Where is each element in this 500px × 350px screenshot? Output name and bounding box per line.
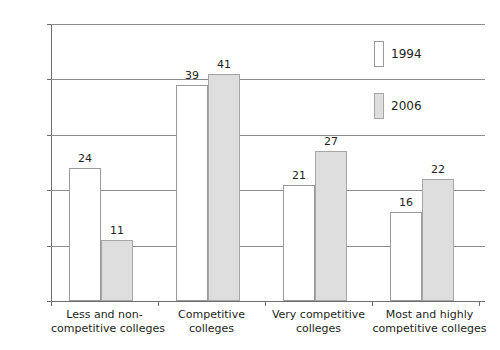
legend-entry-1994: 1994: [374, 41, 422, 67]
x-category-label-most-and-highly-competitive: Most and highly competitive colleges: [372, 308, 487, 336]
bar-1994-very-competitive: 21: [283, 185, 315, 301]
x-category-line: Less and non-: [51, 308, 158, 322]
x-category-line: Most and highly: [372, 308, 487, 322]
bar-value-label: 22: [431, 163, 445, 176]
x-category-line: colleges: [265, 322, 372, 336]
gridline-20: [51, 190, 485, 191]
bar-value-label: 21: [292, 169, 306, 182]
bar-2006-less-and-non-competitive: 11: [101, 240, 133, 301]
legend-swatch-1994-icon: [374, 41, 384, 67]
bar-2006-most-and-highly-competitive: 22: [422, 179, 454, 301]
x-axis-baseline: [51, 301, 485, 302]
bar-chart-figure: Percent 50 40 30 20 10 0 24 11 39 41: [0, 0, 500, 350]
x-tick-mark-0: [51, 301, 52, 306]
bar-value-label: 39: [185, 69, 199, 82]
bar-value-label: 27: [324, 135, 338, 148]
x-category-label-competitive: Competitive colleges: [158, 308, 265, 336]
legend-label-2006: 2006: [391, 99, 422, 113]
bar-2006-competitive: 41: [208, 74, 240, 301]
bar-value-label: 24: [78, 152, 92, 165]
x-category-line: competitive colleges: [372, 322, 487, 336]
x-category-label-less-and-non-competitive: Less and non- competitive colleges: [51, 308, 158, 336]
x-tick-mark-2: [265, 301, 266, 306]
bar-1994-competitive: 39: [176, 85, 208, 301]
bar-1994-less-and-non-competitive: 24: [69, 168, 101, 301]
gridline-50: [51, 24, 485, 25]
x-category-line: competitive colleges: [51, 322, 158, 336]
x-category-line: Very competitive: [265, 308, 372, 322]
x-category-line: Competitive: [158, 308, 265, 322]
x-tick-mark-1: [158, 301, 159, 306]
gridline-40: [51, 79, 485, 80]
x-tick-mark-3: [372, 301, 373, 306]
legend-label-1994: 1994: [391, 47, 422, 61]
x-category-label-very-competitive: Very competitive colleges: [265, 308, 372, 336]
bar-value-label: 41: [217, 58, 231, 71]
bar-1994-most-and-highly-competitive: 16: [390, 212, 422, 301]
bar-value-label: 16: [399, 196, 413, 209]
bar-value-label: 11: [110, 224, 124, 237]
legend-swatch-2006-icon: [374, 93, 384, 119]
gridline-30: [51, 135, 485, 136]
bar-2006-very-competitive: 27: [315, 151, 347, 301]
legend-entry-2006: 2006: [374, 93, 422, 119]
x-tick-mark-4: [479, 301, 480, 306]
x-category-line: colleges: [158, 322, 265, 336]
